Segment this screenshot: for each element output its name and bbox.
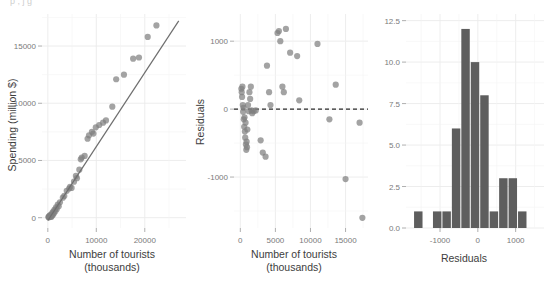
data-point bbox=[258, 137, 264, 143]
histogram-bar bbox=[490, 211, 498, 228]
data-point bbox=[326, 116, 332, 122]
data-point bbox=[136, 54, 142, 60]
residual-y-axis-title: Residuals bbox=[194, 99, 206, 145]
residual-x-axis-title: Number of tourists bbox=[251, 248, 337, 260]
y-tick-label: 0 bbox=[32, 214, 37, 223]
data-point bbox=[153, 22, 159, 28]
data-point bbox=[276, 28, 282, 34]
data-point bbox=[277, 38, 283, 44]
x-tick-label: 0 bbox=[476, 236, 481, 245]
residual-plot-svg: -100001000 050001000015000 Residuals Num… bbox=[190, 0, 372, 283]
data-point bbox=[283, 26, 289, 32]
residual-points bbox=[238, 26, 365, 221]
histogram-y-axis-labels: 0.02.55.07.510.012.5 bbox=[384, 17, 406, 233]
regression-diagnostics-figure: p , j g 050001000015000 01000020000 Spen… bbox=[0, 0, 553, 283]
data-point bbox=[248, 84, 254, 90]
x-tick-label: 0 bbox=[46, 236, 51, 245]
data-point bbox=[253, 107, 259, 113]
x-tick-label: 5000 bbox=[266, 236, 284, 245]
y-tick-label: 5.0 bbox=[389, 141, 401, 150]
data-point bbox=[267, 102, 273, 108]
histogram-x-axis-title: Residuals bbox=[441, 252, 487, 264]
histogram-bar bbox=[518, 211, 526, 228]
scatter-x-axis-title: Number of tourists bbox=[69, 248, 155, 260]
y-tick-label: -1000 bbox=[208, 173, 229, 182]
data-point bbox=[262, 154, 268, 160]
data-point bbox=[242, 120, 248, 126]
data-point bbox=[333, 82, 339, 88]
x-tick-label: 15000 bbox=[334, 236, 357, 245]
y-tick-label: 5000 bbox=[18, 156, 36, 165]
data-point bbox=[90, 130, 96, 136]
data-point bbox=[241, 114, 247, 120]
residual-gridlines bbox=[234, 14, 368, 228]
panel-residuals-vs-tourists: -100001000 050001000015000 Residuals Num… bbox=[190, 0, 372, 283]
residual-x-axis-labels: 050001000015000 bbox=[238, 228, 357, 245]
data-point bbox=[281, 89, 287, 95]
histogram-bar bbox=[452, 128, 460, 228]
data-point bbox=[103, 117, 109, 123]
x-tick-label: 0 bbox=[238, 236, 243, 245]
histogram-bar bbox=[499, 178, 507, 228]
y-tick-label: 15000 bbox=[14, 42, 37, 51]
y-tick-label: 0 bbox=[224, 105, 229, 114]
x-tick-label: 10000 bbox=[299, 236, 322, 245]
data-point bbox=[266, 89, 272, 95]
x-tick-label: -1000 bbox=[430, 236, 451, 245]
data-point bbox=[356, 120, 362, 126]
histogram-bar bbox=[509, 178, 517, 228]
data-point bbox=[121, 72, 127, 78]
data-point bbox=[239, 94, 245, 100]
residual-x-axis-title-units: (thousands) bbox=[266, 261, 321, 273]
data-point bbox=[294, 53, 300, 59]
data-point bbox=[244, 126, 250, 132]
data-point bbox=[145, 34, 151, 40]
data-point bbox=[245, 102, 251, 108]
data-point bbox=[244, 139, 250, 145]
panel-scatter-spending-vs-tourists: 050001000015000 01000020000 Spending (mi… bbox=[0, 0, 190, 283]
y-tick-label: 10.0 bbox=[384, 58, 400, 67]
y-tick-label: 2.5 bbox=[389, 183, 401, 192]
scatter-points bbox=[45, 22, 159, 220]
residual-y-axis-labels: -100001000 bbox=[208, 37, 234, 182]
regression-fit-line bbox=[48, 21, 179, 221]
histogram-x-axis-labels: -100001000 bbox=[430, 228, 525, 245]
data-point bbox=[287, 50, 293, 56]
histogram-bar bbox=[471, 62, 479, 228]
histogram-bars bbox=[414, 29, 526, 228]
data-point bbox=[113, 76, 119, 82]
scatter-x-axis-title-units: (thousands) bbox=[84, 261, 139, 273]
data-point bbox=[314, 41, 320, 47]
data-point bbox=[244, 144, 250, 150]
panel-histogram-of-residuals: 0.02.55.07.510.012.5 -100001000 Residual… bbox=[372, 0, 553, 283]
data-point bbox=[359, 215, 365, 221]
histogram-svg: 0.02.55.07.510.012.5 -100001000 Residual… bbox=[372, 0, 553, 283]
x-tick-label: 10000 bbox=[85, 236, 108, 245]
x-tick-label: 1000 bbox=[507, 236, 525, 245]
data-point bbox=[342, 176, 348, 182]
data-point bbox=[239, 84, 245, 90]
data-point bbox=[264, 63, 270, 69]
x-tick-label: 20000 bbox=[134, 236, 157, 245]
data-point bbox=[109, 104, 115, 110]
histogram-bar bbox=[414, 211, 422, 228]
data-point bbox=[82, 153, 88, 159]
data-point bbox=[247, 96, 253, 102]
histogram-bar bbox=[461, 29, 469, 228]
scatter-y-axis-title: Spending (million $) bbox=[6, 79, 18, 172]
y-tick-label: 0.0 bbox=[389, 224, 401, 233]
y-tick-label: 12.5 bbox=[384, 17, 400, 26]
histogram-bar bbox=[433, 211, 441, 228]
scatter-plot-svg: 050001000015000 01000020000 Spending (mi… bbox=[0, 0, 190, 283]
histogram-bar bbox=[442, 211, 450, 228]
data-point bbox=[246, 89, 252, 95]
histogram-bar bbox=[480, 95, 488, 228]
data-point bbox=[279, 84, 285, 90]
y-tick-label: 7.5 bbox=[389, 100, 401, 109]
y-tick-label: 1000 bbox=[210, 37, 228, 46]
data-point bbox=[130, 56, 136, 62]
data-point bbox=[296, 97, 302, 103]
scatter-x-axis-labels: 01000020000 bbox=[46, 228, 157, 245]
